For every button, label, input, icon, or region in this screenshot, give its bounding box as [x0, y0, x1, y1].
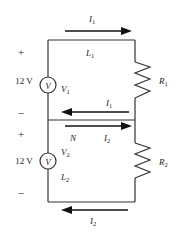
current-label-i1-top: I1	[88, 14, 95, 25]
minus-sign-v1: –	[17, 106, 24, 118]
current-label-i2-middle: I2	[103, 133, 110, 144]
plus-sign-v1: +	[18, 46, 24, 58]
shared-wire: N I2	[65, 122, 132, 144]
current-label-i2-bottom: I2	[89, 216, 96, 227]
resistor-label-r1: R1	[158, 76, 168, 87]
source-symbol: V	[45, 81, 52, 91]
voltage-value-v2: 12 V	[15, 156, 33, 166]
resistor-label-r2: R2	[158, 157, 168, 168]
source-label-v2: V2	[61, 147, 70, 158]
bottom-loop: V + – 12 V V2 L2 R2 I2	[15, 128, 168, 227]
voltage-source-v2: V	[40, 153, 56, 169]
current-arrow-i2-bottom	[61, 206, 128, 214]
wire-label-l1: L1	[85, 48, 94, 59]
node-label-n: N	[69, 133, 77, 143]
minus-sign-v2: –	[17, 186, 24, 198]
voltage-source-v1: V	[40, 77, 56, 93]
wire-label-l2: L2	[60, 172, 69, 183]
source-label-v1: V1	[61, 84, 70, 95]
arrow-right-icon	[121, 122, 132, 130]
current-arrow-i2-middle	[65, 122, 132, 130]
resistor-r1-zigzag-icon	[135, 62, 150, 98]
current-arrow-i1-return	[61, 108, 129, 116]
arrow-right-icon	[121, 27, 132, 35]
arrow-left-icon	[61, 206, 72, 214]
circuit-diagram: V + – 12 V V1 L1 R1 I1 I1 N I2	[0, 0, 190, 238]
resistor-r2-zigzag-icon	[135, 143, 150, 178]
plus-sign-v2: +	[18, 128, 24, 140]
source-symbol: V	[45, 157, 52, 167]
arrow-left-icon	[61, 108, 72, 116]
current-arrow-i1-top	[65, 27, 132, 35]
top-loop: V + – 12 V V1 L1 R1 I1 I1	[15, 14, 168, 118]
current-label-i1-return: I1	[105, 98, 112, 109]
voltage-value-v1: 12 V	[15, 76, 33, 86]
